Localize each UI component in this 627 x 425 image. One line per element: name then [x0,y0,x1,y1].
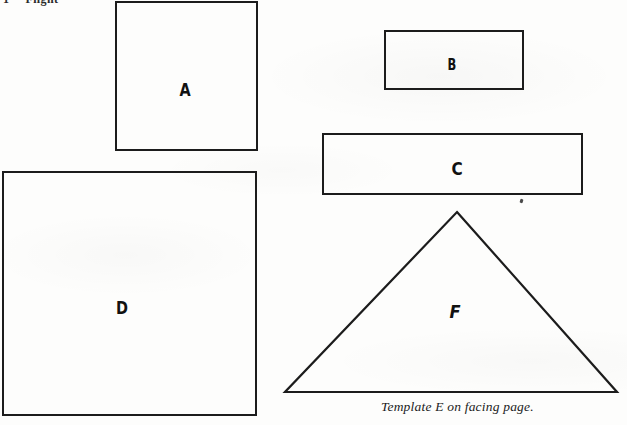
shape-label-f: F [449,301,460,322]
shape-label-a: A [179,80,190,100]
figure-caption: Template E on facing page. [381,399,534,415]
shape-label-d: D [116,298,128,318]
shape-label-b: B [448,55,457,74]
scan-speck-artifact [519,199,523,204]
template-shape-a [115,1,258,151]
running-head-title: Flight [25,0,58,6]
template-shape-d [2,171,257,416]
scanned-page: 1Flight A B C D F Template E on facing p… [0,0,627,425]
page-folio-number: 1 [3,0,9,6]
running-head: 1Flight [3,0,58,7]
shape-label-c: C [451,159,462,179]
